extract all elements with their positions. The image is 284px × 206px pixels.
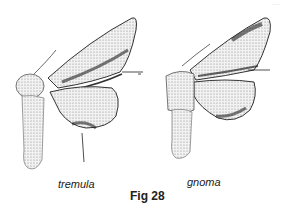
moth-illustrations xyxy=(0,0,284,206)
moth-tremula xyxy=(16,18,143,169)
figure-caption: Fig 28 xyxy=(130,189,165,203)
specimen-label-gnoma: gnoma xyxy=(187,176,221,188)
moth-gnoma xyxy=(138,18,270,159)
specimen-label-tremula: tremula xyxy=(58,178,95,190)
figure: ..... xyxy=(0,0,284,206)
page-corner-mark: ..... xyxy=(272,0,280,6)
